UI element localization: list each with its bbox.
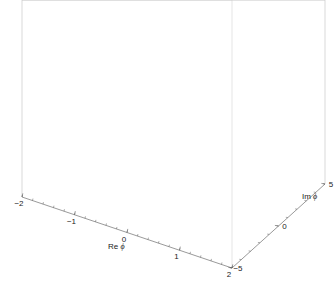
im-phi-axis-tick-label: −5	[233, 264, 243, 273]
im-phi-axis-tick	[228, 267, 232, 268]
bounding-box-front	[232, 0, 325, 268]
im-phi-axis-tick-label: 5	[329, 180, 334, 189]
re-phi-axis: −2−1012	[14, 193, 232, 279]
im-phi-axis: −505	[228, 180, 333, 273]
re-phi-axis-tick	[127, 229, 128, 233]
re-phi-axis-tick-label: −1	[67, 217, 77, 226]
re-phi-axis-label: Re ϕ	[108, 242, 125, 251]
im-phi-axis-tick	[275, 225, 279, 226]
re-phi-axis-tick-label: −2	[14, 199, 24, 208]
re-phi-axis-tick-label: 1	[174, 252, 179, 261]
im-phi-axis-tick	[321, 183, 325, 184]
im-phi-axis-label: Im ϕ	[302, 192, 317, 201]
surface-plot: −2−1012 −505 Re ϕ Im ϕ	[0, 0, 335, 281]
re-phi-axis-tick	[180, 247, 181, 251]
re-phi-axis-tick-label: 2	[227, 270, 232, 279]
im-phi-axis-tick-label: 0	[282, 222, 287, 231]
bounding-box-back	[22, 0, 325, 197]
re-phi-axis-tick	[75, 211, 76, 215]
